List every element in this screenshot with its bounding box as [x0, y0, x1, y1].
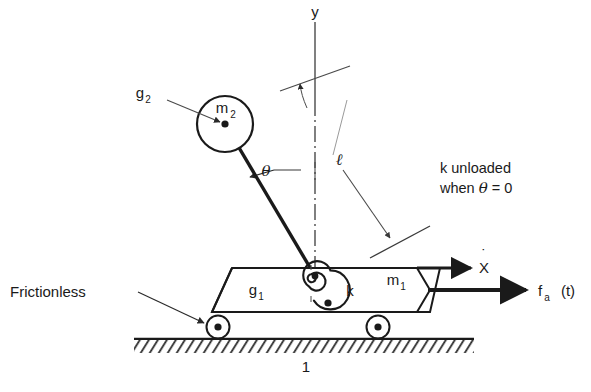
cg-cart-subscript: 1	[258, 291, 264, 302]
cg-pendulum-label: g 2	[136, 84, 151, 105]
spring-note: k unloaded when θ = 0	[439, 160, 512, 197]
cg-cart-letter: g	[249, 281, 257, 298]
figure-number-label: 1	[302, 358, 310, 375]
frictionless-label: Frictionless	[10, 283, 86, 300]
spring-note-line1: k unloaded	[440, 160, 511, 176]
theta-leader	[250, 162, 315, 180]
velocity-dot-accent: ˙	[482, 246, 487, 263]
cg-pendulum-subscript: 2	[145, 94, 151, 105]
cart-mass-letter: m	[387, 271, 400, 288]
wheel-left	[207, 316, 230, 339]
cart-mass-subscript: 1	[400, 281, 406, 292]
pendulum-mass-subscript: 2	[230, 109, 236, 120]
length-leader-l	[333, 100, 430, 258]
wheel-right	[367, 316, 390, 339]
diagram-canvas: y g 2 m 2 θ ℓ g 1 k m 1 X ˙	[0, 0, 591, 392]
force-letter: f	[538, 282, 543, 299]
force-subscript: a	[544, 292, 550, 303]
spring-note-line2-theta: θ	[479, 179, 488, 197]
frictionless-leader	[138, 292, 204, 323]
velocity-label: X ˙	[479, 246, 489, 276]
spring-note-line2: when θ = 0	[439, 179, 512, 197]
cg-pendulum-letter: g	[136, 84, 144, 101]
force-label: f a (t)	[538, 282, 575, 303]
y-axis-label: y	[311, 3, 319, 20]
pendulum-mass-letter: m	[216, 99, 229, 116]
theta-label: θ	[261, 162, 270, 180]
force-argument: (t)	[561, 282, 575, 299]
spring-label: k	[346, 282, 354, 299]
spring-note-line2-prefix: when	[439, 180, 479, 196]
length-label: ℓ	[336, 150, 343, 169]
spring-note-line2-suffix: = 0	[488, 180, 513, 196]
ground-hatching	[134, 339, 474, 353]
pendulum-cart-diagram: y g 2 m 2 θ ℓ g 1 k m 1 X ˙	[0, 0, 591, 392]
